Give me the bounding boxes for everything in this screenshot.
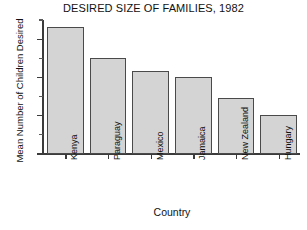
y-tick-minor bbox=[39, 134, 43, 135]
x-tick bbox=[108, 154, 109, 159]
y-axis-title: Mean Number of Children Desired bbox=[14, 16, 25, 166]
chart-figure: DESIRED SIZE OF FAMILIES, 1982 Mean Numb… bbox=[0, 0, 307, 230]
y-tick-major bbox=[37, 77, 43, 78]
x-tick-label: Kenya bbox=[69, 134, 79, 160]
x-tick bbox=[279, 154, 280, 159]
chart-title: DESIRED SIZE OF FAMILIES, 1982 bbox=[0, 2, 307, 14]
x-tick bbox=[65, 154, 66, 159]
y-tick-minor bbox=[39, 58, 43, 59]
x-tick-label: Hungary bbox=[283, 126, 293, 160]
y-tick-major bbox=[37, 115, 43, 116]
plot-area bbox=[44, 20, 300, 154]
y-tick-minor bbox=[39, 19, 43, 20]
y-tick-major bbox=[37, 39, 43, 40]
x-tick-label: Paraguay bbox=[112, 121, 122, 160]
x-tick-label: Mexico bbox=[155, 131, 165, 160]
y-tick-minor bbox=[39, 96, 43, 97]
x-tick bbox=[236, 154, 237, 159]
x-tick bbox=[193, 154, 194, 159]
x-tick-label: Jamaica bbox=[197, 126, 207, 160]
x-tick-label: New Zealand bbox=[240, 107, 250, 160]
y-tick-major bbox=[37, 153, 43, 154]
x-tick bbox=[151, 154, 152, 159]
x-axis-title: Country bbox=[44, 206, 300, 218]
